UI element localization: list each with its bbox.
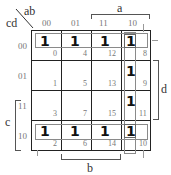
bracket-d-label: d xyxy=(161,82,167,97)
bracket-c-tick xyxy=(15,100,21,101)
bracket-a-tick xyxy=(91,14,92,19)
cell-index-9: 9 xyxy=(143,79,147,88)
cell-index-6: 6 xyxy=(83,139,87,148)
bracket-c-label: c xyxy=(5,115,10,130)
cell-index-3: 3 xyxy=(53,109,57,118)
bracket-a-label: a xyxy=(117,1,122,16)
group-loop-extend xyxy=(143,150,144,158)
col-header-10: 10 xyxy=(128,18,137,28)
col-vars-label: ab xyxy=(24,4,35,19)
bracket-d xyxy=(158,60,159,120)
grid-line xyxy=(150,30,151,151)
cell-value-8: 1 xyxy=(126,33,136,49)
cell-index-15: 15 xyxy=(108,109,116,118)
cell-index-14: 14 xyxy=(108,139,116,148)
bracket-a-tick xyxy=(149,14,150,19)
cell-index-5: 5 xyxy=(83,79,87,88)
col-header-00: 00 xyxy=(42,18,51,28)
cell-index-13: 13 xyxy=(108,79,116,88)
bracket-b-tick xyxy=(61,154,62,159)
group-loop-extend xyxy=(152,40,158,41)
cell-index-4: 4 xyxy=(83,49,87,58)
cell-index-1: 1 xyxy=(53,79,57,88)
cell-value-11: 1 xyxy=(126,93,136,109)
grid-line xyxy=(31,30,32,151)
cell-index-8: 8 xyxy=(143,49,147,58)
group-loop-extend xyxy=(37,150,38,156)
bracket-c xyxy=(15,100,16,151)
cell-value-0: 1 xyxy=(40,33,50,49)
group-loop-extend xyxy=(143,24,144,32)
cell-value-2: 1 xyxy=(40,123,50,139)
cell-index-10: 10 xyxy=(139,139,147,148)
row-header-10: 10 xyxy=(18,131,27,141)
row-header-01: 01 xyxy=(18,71,27,81)
cell-index-2: 2 xyxy=(53,139,57,148)
cell-value-4: 1 xyxy=(70,33,80,49)
cell-value-12: 1 xyxy=(100,33,110,49)
cell-value-14: 1 xyxy=(100,123,110,139)
bracket-c-tick xyxy=(15,150,21,151)
row-vars-label: cd xyxy=(6,16,17,31)
cell-index-7: 7 xyxy=(83,109,87,118)
bracket-b xyxy=(61,159,121,160)
col-header-01: 01 xyxy=(71,18,80,28)
bracket-d-tick xyxy=(153,60,158,61)
col-header-11: 11 xyxy=(99,18,108,28)
cell-value-6: 1 xyxy=(70,123,80,139)
cell-index-11: 11 xyxy=(139,109,147,118)
bracket-d-tick xyxy=(153,119,158,120)
bracket-b-tick xyxy=(120,154,121,159)
row-header-11: 11 xyxy=(18,101,27,111)
cell-value-9: 1 xyxy=(126,63,136,79)
cell-index-0: 0 xyxy=(53,49,57,58)
cell-value-10: 1 xyxy=(126,123,136,139)
bracket-b-label: b xyxy=(87,161,93,175)
cell-index-12: 12 xyxy=(108,49,116,58)
row-header-00: 00 xyxy=(18,41,27,51)
